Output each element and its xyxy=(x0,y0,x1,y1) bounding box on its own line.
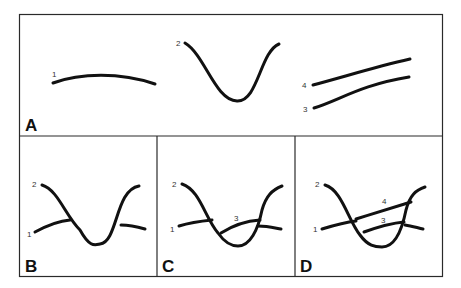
curve-2 xyxy=(325,185,425,247)
diagram-figure: 1 2 4 3 A 2 1 B 2 1 3 C 2 1 4 3 D xyxy=(0,0,461,288)
label-3: 3 xyxy=(381,216,386,225)
curve-4 xyxy=(313,59,410,85)
panel-letter-a: A xyxy=(25,116,37,135)
label-1: 1 xyxy=(170,225,175,234)
label-2: 2 xyxy=(315,180,320,189)
label-2: 2 xyxy=(32,180,37,189)
curve-1 xyxy=(53,75,155,84)
label-3: 3 xyxy=(234,214,239,223)
panel-letter-b: B xyxy=(25,257,37,276)
label-1: 1 xyxy=(52,70,57,79)
panel-letter-d: D xyxy=(300,257,312,276)
curve-2 xyxy=(185,43,279,101)
panel-d: 2 1 4 3 D xyxy=(300,180,425,276)
label-2: 2 xyxy=(176,39,181,48)
label-4: 4 xyxy=(382,197,387,206)
label-4: 4 xyxy=(302,81,307,90)
curve-2 xyxy=(42,185,139,245)
curve-1 xyxy=(35,220,145,232)
label-1: 1 xyxy=(27,230,32,239)
panel-b: 2 1 B xyxy=(25,180,145,276)
label-2: 2 xyxy=(172,180,177,189)
curve-2 xyxy=(182,184,282,246)
panel-letter-c: C xyxy=(162,257,174,276)
panel-c: 2 1 3 C xyxy=(162,180,282,276)
panel-a: 1 2 4 3 A xyxy=(25,39,410,135)
label-1: 1 xyxy=(313,225,318,234)
label-3: 3 xyxy=(303,105,308,114)
